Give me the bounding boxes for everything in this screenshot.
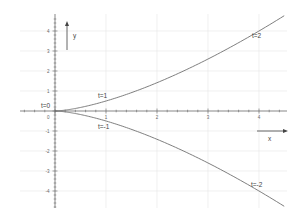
y-tick-label: -1 [46,129,50,134]
annotation-t0: t=0 [41,102,51,109]
curve-upper-branch [55,16,284,111]
y-tick-label: -2 [46,149,50,154]
x-tick-label: 3 [207,115,210,120]
x-tick-label: 4 [258,115,261,120]
x-arrowhead-icon [283,129,288,133]
curve-lower-branch [55,111,284,206]
annotation-t1: t=1 [98,92,108,99]
x-tick-label: 2 [156,115,159,120]
plot-area: 12344321-1-2-3-4 y x t=0 0 t=1 t=-1 t=2 … [0,0,304,219]
x-tick-label: 1 [105,115,108,120]
y-axis-label: y [73,32,77,40]
y-tick-label: -3 [46,169,50,174]
y-arrowhead-icon [65,21,69,26]
annotation-tm2: t=-2 [251,181,263,188]
annotation-t2: t=2 [252,32,262,39]
ticks: 12344321-1-2-3-4 [24,19,279,207]
origin-tick-label: 0 [47,115,50,120]
x-axis-label: x [268,135,272,142]
annotation-tm1: t=-1 [98,123,110,130]
y-tick-label: -4 [46,189,50,194]
